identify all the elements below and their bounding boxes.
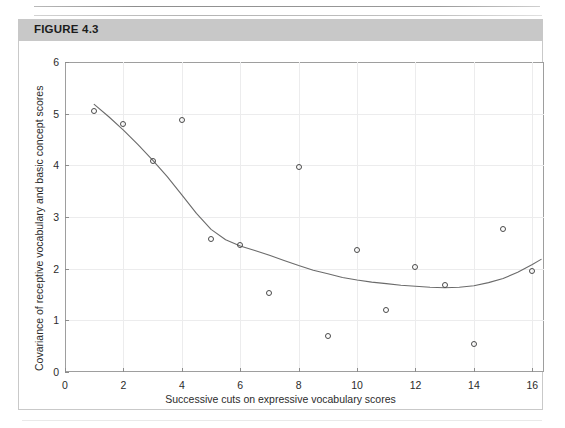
y-tick-label: 2 xyxy=(45,263,59,275)
y-tick-label: 5 xyxy=(45,108,59,120)
data-point xyxy=(237,242,243,248)
data-point xyxy=(296,164,302,170)
x-tick-label: 2 xyxy=(120,379,126,391)
figure-frame: 0246810121416 0123456 Successive cuts on… xyxy=(18,41,543,410)
x-tick-label: 14 xyxy=(468,379,480,391)
x-tick xyxy=(415,368,416,372)
x-tick-label: 8 xyxy=(296,379,302,391)
y-tick xyxy=(65,269,69,270)
y-tick-label: 3 xyxy=(45,211,59,223)
gridline-horizontal xyxy=(65,114,544,115)
gridline-horizontal xyxy=(65,320,544,321)
x-axis-title: Successive cuts on expressive vocabulary… xyxy=(19,393,542,405)
y-tick xyxy=(65,217,69,218)
x-tick-label: 12 xyxy=(410,379,422,391)
data-point xyxy=(91,108,97,114)
data-point xyxy=(471,341,477,347)
data-point xyxy=(208,236,214,242)
y-tick xyxy=(65,320,69,321)
y-axis-title: Covariance of receptive vocabulary and b… xyxy=(33,86,45,371)
x-tick xyxy=(299,368,300,372)
data-point xyxy=(179,117,185,123)
x-tick xyxy=(357,368,358,372)
figure-page: FIGURE 4.3 0246810121416 0123456 Success… xyxy=(0,0,565,428)
y-tick xyxy=(65,165,69,166)
data-point xyxy=(412,264,418,270)
x-tick xyxy=(182,368,183,372)
x-tick xyxy=(474,368,475,372)
y-tick xyxy=(65,114,69,115)
plot-area xyxy=(65,62,544,372)
y-tick xyxy=(65,372,69,373)
x-tick-label: 4 xyxy=(179,379,185,391)
y-tick-label: 1 xyxy=(45,314,59,326)
y-tick-label: 0 xyxy=(45,366,59,378)
data-point xyxy=(354,247,360,253)
y-tick xyxy=(65,62,69,63)
data-point xyxy=(500,226,506,232)
data-point xyxy=(120,121,126,127)
page-top-rule xyxy=(34,6,540,7)
x-tick xyxy=(123,368,124,372)
y-tick-label: 6 xyxy=(45,56,59,68)
data-point xyxy=(266,290,272,296)
page-bottom-rule xyxy=(22,420,542,421)
y-tick-label: 4 xyxy=(45,159,59,171)
data-point xyxy=(383,307,389,313)
data-point xyxy=(442,282,448,288)
x-tick xyxy=(240,368,241,372)
figure-label: FIGURE 4.3 xyxy=(34,23,99,35)
x-tick-label: 0 xyxy=(62,379,68,391)
data-point xyxy=(150,158,156,164)
page-top-rule-secondary xyxy=(34,15,542,16)
x-tick xyxy=(532,368,533,372)
gridline-horizontal xyxy=(65,217,544,218)
data-point xyxy=(529,268,535,274)
x-tick-label: 16 xyxy=(526,379,538,391)
figure-header-band: FIGURE 4.3 xyxy=(18,19,543,41)
gridline-horizontal xyxy=(65,269,544,270)
data-point xyxy=(325,333,331,339)
gridline-horizontal xyxy=(65,165,544,166)
x-tick-label: 6 xyxy=(237,379,243,391)
x-tick-label: 10 xyxy=(351,379,363,391)
